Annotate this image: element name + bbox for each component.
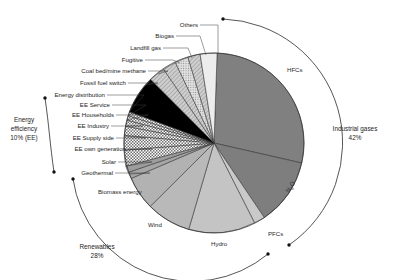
group-label-ee-line2: efficiency xyxy=(11,125,38,133)
bracket-dot-ren-end xyxy=(266,252,269,255)
label-energy-distribution: Energy distribution xyxy=(55,91,105,98)
label-geothermal: Geothermal xyxy=(81,169,113,176)
label-ee-industry: EE Industry xyxy=(78,122,110,129)
bracket-energy-efficiency xyxy=(45,98,54,172)
group-label-ee-percent: 10% (EE) xyxy=(10,134,37,142)
label-hydro: Hydro xyxy=(211,240,228,247)
label-fossil-fuel-switch: Fossil fuel switch xyxy=(80,79,126,86)
label-solar: Solar xyxy=(102,158,116,165)
label-pfcs: PFCs xyxy=(268,230,283,237)
group-label-renewables-percent: 28% xyxy=(91,252,104,259)
label-biogas: Biogas xyxy=(155,32,174,39)
group-label-ee-line1: Energy xyxy=(14,116,35,124)
label-ee-service: EE Service xyxy=(80,101,111,108)
bracket-dot-ee-start xyxy=(43,96,46,99)
pie-chart-figure: Others Biogas Landfill gas Fugitive Coal… xyxy=(0,0,407,280)
label-ee-own-generation: EE own generation xyxy=(75,145,127,152)
pie-slices xyxy=(124,53,304,233)
label-ee-supply-side: EE Supply side xyxy=(73,134,115,141)
group-label-industrial-gases: Industrial gases 42% xyxy=(333,125,378,141)
bracket-dot-ee-end xyxy=(52,170,55,173)
leader-others xyxy=(200,25,218,53)
group-label-energy-efficiency: Energy efficiency 10% (EE) xyxy=(10,116,38,142)
leader-fugitive xyxy=(145,60,180,63)
label-fugitive: Fugitive xyxy=(122,56,144,63)
label-others: Others xyxy=(180,21,198,28)
group-label-industrial-gases-percent: 42% xyxy=(349,134,362,141)
pie-chart-svg: Others Biogas Landfill gas Fugitive Coal… xyxy=(0,0,407,280)
bracket-dot-ig-start xyxy=(221,17,224,20)
label-biomass-energy: Biomass energy xyxy=(98,188,143,195)
label-landfill-gas: Landfill gas xyxy=(130,44,161,51)
bracket-dot-ren-start xyxy=(71,177,74,180)
label-hfcs: HFCs xyxy=(287,66,303,73)
label-ee-households: EE Households xyxy=(72,111,114,118)
label-wind: Wind xyxy=(148,221,162,228)
group-label-industrial-gases-line1: Industrial gases xyxy=(333,125,378,133)
leader-biogas xyxy=(176,36,206,55)
bracket-dot-ig-end xyxy=(287,243,290,246)
group-label-renewables: Renewables 28% xyxy=(79,243,114,259)
label-coal-bed-mine-methane: Coal bed/mine methane xyxy=(81,67,146,74)
leader-landfill xyxy=(163,48,192,58)
group-label-renewables-line1: Renewables xyxy=(79,243,114,250)
